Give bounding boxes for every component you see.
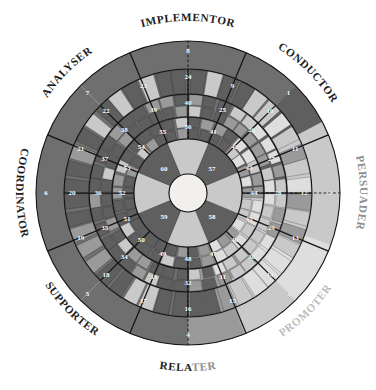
segment-number-inner: 58 — [209, 213, 217, 221]
segment-number: 22 — [102, 107, 110, 115]
segment-number: 11 — [292, 145, 299, 153]
segment-number: 41 — [210, 128, 218, 136]
segment-number: 46 — [231, 236, 239, 244]
segment-number: 42 — [231, 143, 239, 151]
sector-label-implementor: IMPLEMENTOR — [139, 11, 237, 29]
segment-number: 27 — [268, 155, 276, 163]
segment-number: 8 — [186, 47, 190, 55]
segment-number: 3 — [287, 290, 291, 298]
segment-number-inner: 60 — [160, 165, 168, 173]
segment-number: 52 — [119, 189, 127, 197]
segment-number: 9 — [231, 82, 235, 90]
mosaic-tile — [189, 269, 201, 280]
mosaic-tile — [101, 194, 112, 206]
mosaic-tile — [264, 180, 275, 193]
segment-number: 4 — [186, 331, 190, 339]
radial-wheel-svg: 1234567891011121314151617181920212223242… — [0, 0, 376, 390]
segment-number: 23 — [140, 82, 148, 90]
segment-number: 18 — [102, 271, 110, 279]
segment-number: 45 — [245, 215, 253, 223]
segment-number: 24 — [185, 73, 193, 81]
mosaic-tile — [177, 269, 188, 280]
segment-number: 38 — [121, 126, 129, 134]
sector-label-coordinator: COORDINATOR — [14, 147, 32, 239]
wheel-diagram: 1234567891011121314151617181920212223242… — [0, 0, 376, 390]
segment-number: 35 — [101, 224, 109, 232]
segment-number: 19 — [77, 234, 85, 242]
segment-number: 1 — [287, 89, 291, 97]
sector-label-persuader: PERSUADER — [354, 154, 370, 231]
segment-number: 33 — [150, 273, 158, 281]
segment-number: 37 — [101, 155, 109, 163]
segment-number-inner: 59 — [160, 213, 168, 221]
sector-label-relater: RELATER — [159, 359, 217, 373]
segment-number: 36 — [95, 189, 103, 197]
segment-number: 49 — [159, 250, 167, 258]
segment-number: 20 — [69, 189, 77, 197]
segment-number: 34 — [121, 253, 129, 261]
segment-number: 54 — [138, 143, 146, 151]
segment-number: 21 — [77, 145, 85, 153]
segment-number: 40 — [185, 99, 193, 107]
segment-number: 7 — [86, 89, 90, 97]
segment-number: 55 — [159, 128, 167, 136]
segment-number: 17 — [140, 297, 148, 305]
segment-number: 12 — [301, 189, 309, 197]
segment-number: 30 — [248, 253, 256, 261]
segment-number: 2 — [328, 189, 332, 197]
segment-number: 44 — [251, 189, 259, 197]
segment-number: 14 — [267, 271, 275, 279]
segment-number: 15 — [229, 297, 237, 305]
segment-number: 43 — [245, 164, 253, 172]
mosaic-tile — [264, 194, 275, 206]
segment-number: 26 — [248, 126, 256, 134]
segment-number: 56 — [185, 123, 193, 131]
mosaic-tile — [101, 179, 112, 192]
mosaic-tile — [175, 106, 187, 117]
segment-number: 29 — [268, 224, 276, 232]
segment-number: 53 — [124, 164, 132, 172]
mosaic-tile — [113, 174, 125, 187]
segment-number: 31 — [219, 273, 227, 281]
segment-number: 39 — [150, 106, 158, 114]
segment-number: 13 — [292, 234, 300, 242]
segment-number: 47 — [210, 250, 218, 258]
segment-number: 50 — [138, 236, 146, 244]
segment-number: 32 — [185, 279, 193, 287]
segment-number: 51 — [124, 215, 132, 223]
segment-number: 10 — [267, 107, 275, 115]
mosaic-tile — [251, 200, 263, 213]
segment-number: 5 — [86, 290, 90, 298]
segment-number: 28 — [275, 189, 283, 197]
segment-number: 16 — [185, 305, 193, 313]
mosaic-tile — [189, 106, 201, 117]
segment-number-inner: 57 — [209, 165, 217, 173]
center-hub — [169, 174, 207, 212]
mosaic-tile — [113, 200, 125, 213]
segment-number: 25 — [219, 106, 227, 114]
segment-number: 48 — [185, 255, 193, 263]
segment-number: 6 — [44, 189, 48, 197]
